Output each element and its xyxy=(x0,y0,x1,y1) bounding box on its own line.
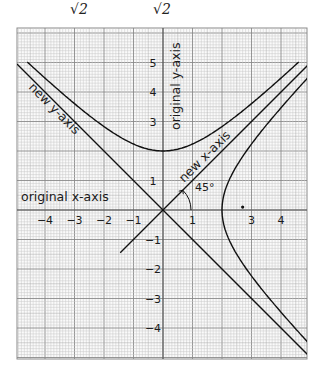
y-tick-label: 4 xyxy=(150,86,157,99)
y-tick-label: 5 xyxy=(150,57,157,70)
angle-label: 45° xyxy=(195,181,215,194)
y-tick-label: −2 xyxy=(145,263,161,276)
y-tick-label: 3 xyxy=(150,116,157,129)
y-tick-label: −1 xyxy=(145,234,161,247)
x-tick-label: −4 xyxy=(37,214,53,227)
x-tick-label: 1 xyxy=(189,214,196,227)
x-tick-label: −3 xyxy=(66,214,82,227)
y-tick-label: −4 xyxy=(145,322,161,335)
x-tick-label: 3 xyxy=(248,214,255,227)
x-tick-label: −1 xyxy=(125,214,141,227)
original-y-axis-label: original y-axis xyxy=(168,43,183,130)
focus-dot xyxy=(241,205,244,208)
x-tick-label: −2 xyxy=(96,214,112,227)
y-tick-label: 1 xyxy=(150,175,157,188)
x-tick-label: 4 xyxy=(278,214,285,227)
hyperbola-rotation-figure: −4−3−2−11345431−1−2−3−4 original x-axiso… xyxy=(0,0,323,388)
original-x-axis-label: original x-axis xyxy=(21,189,109,204)
y-tick-label: −3 xyxy=(145,293,161,306)
